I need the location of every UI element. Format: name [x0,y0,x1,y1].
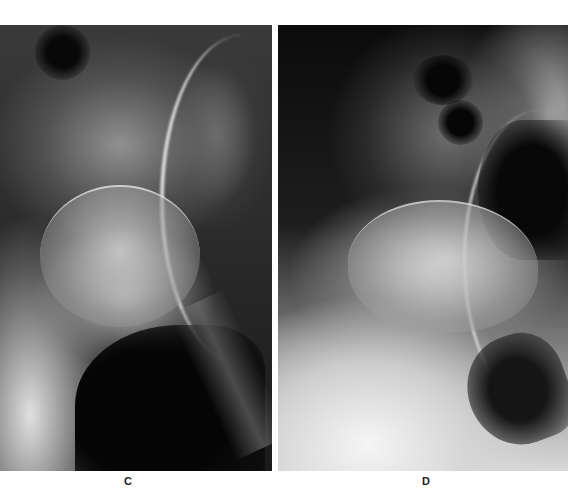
panel-label-c: C [118,475,138,487]
panel-label-d: D [416,475,436,487]
xray-dark-foramen [35,25,90,80]
xray-femoral-head [348,200,538,332]
figure-caption-cutoff [40,488,200,493]
xray-femoral-head [40,185,200,327]
xray-dark-foramen-lower [438,100,483,145]
xray-panel-d [278,25,568,471]
xray-panel-c [0,25,272,471]
xray-dark-foramen-upper [413,55,473,105]
